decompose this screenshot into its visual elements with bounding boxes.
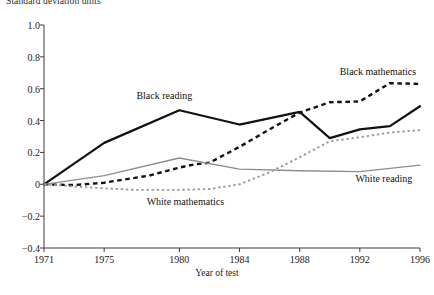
- x-axis-title: Year of test: [0, 268, 434, 278]
- series-line: [44, 130, 420, 190]
- plot-area: [0, 0, 434, 295]
- series-line: [44, 83, 420, 185]
- chart-container: Standard deviation units 1.00.80.60.40.2…: [0, 0, 434, 295]
- series-line: [44, 106, 420, 184]
- series-line: [44, 158, 420, 184]
